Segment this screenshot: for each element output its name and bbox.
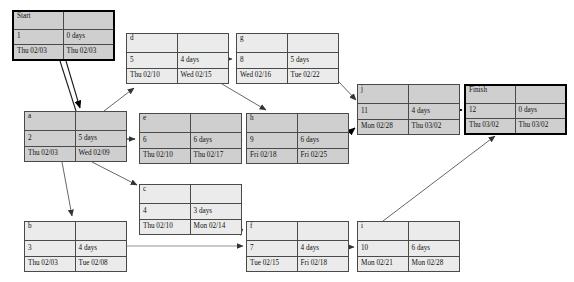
node-id-duration-row: 96 days — [247, 133, 348, 148]
node-task-id: 1 — [14, 30, 64, 44]
node-task-id: 9 — [247, 133, 298, 147]
node-name-row: i — [358, 222, 459, 241]
node-duration: 3 days — [191, 204, 242, 218]
node-id-duration-row: 120 days — [466, 104, 565, 119]
task-node-e[interactable]: e66 daysThu 02/10Thu 02/17 — [139, 113, 242, 164]
node-task-name: j — [358, 85, 409, 103]
node-id-duration-row: 74 days — [247, 241, 348, 256]
node-duration: 0 days — [64, 30, 114, 44]
node-duration: 5 days — [288, 53, 339, 67]
node-dates-row: Mon 02/21Mon 02/28 — [358, 257, 459, 271]
node-name-spacer — [191, 114, 242, 132]
node-start-date: Thu 02/10 — [140, 220, 191, 234]
node-start-date: Thu 02/03 — [25, 257, 76, 271]
node-finish-date: Mon 02/28 — [409, 257, 460, 271]
node-start-date: Thu 02/03 — [14, 45, 64, 59]
node-name-spacer — [298, 222, 349, 240]
node-task-name: f — [247, 222, 298, 240]
node-start-date: Mon 02/21 — [358, 257, 409, 271]
node-duration: 0 days — [516, 104, 566, 118]
node-finish-date: Tue 02/22 — [288, 69, 339, 83]
task-node-f[interactable]: f74 daysTue 02/15Fri 02/18 — [246, 221, 349, 272]
node-duration: 4 days — [178, 53, 229, 67]
node-start-date: Wed 02/16 — [237, 69, 288, 83]
node-id-duration-row: 66 days — [140, 133, 241, 148]
node-start-date: Mon 02/28 — [358, 120, 409, 134]
node-task-name: i — [358, 222, 409, 240]
node-task-name: g — [237, 34, 288, 52]
node-name-row: Start — [14, 12, 113, 30]
node-task-id: 7 — [247, 241, 298, 255]
node-task-id: 5 — [127, 53, 178, 67]
node-name-spacer — [64, 12, 114, 29]
edge-a-c — [92, 162, 137, 185]
node-task-id: 11 — [358, 104, 409, 118]
node-duration: 4 days — [298, 241, 349, 255]
node-name-row: e — [140, 114, 241, 133]
edge-g-j — [339, 82, 356, 100]
node-name-row: d — [127, 34, 228, 53]
task-node-finish[interactable]: Finish120 daysThu 03/02Thu 03/02 — [464, 84, 567, 135]
node-dates-row: Thu 02/10Mon 02/14 — [140, 220, 241, 234]
node-task-id: 4 — [140, 204, 191, 218]
task-node-h[interactable]: h96 daysFri 02/18Fri 02/25 — [246, 113, 349, 164]
edge-h-j — [349, 128, 355, 133]
node-task-name: Start — [14, 12, 64, 29]
node-start-date: Thu 02/10 — [127, 69, 178, 83]
node-id-duration-row: 43 days — [140, 204, 241, 219]
node-dates-row: Wed 02/16Tue 02/22 — [237, 69, 338, 83]
node-task-id: 10 — [358, 241, 409, 255]
task-node-j[interactable]: j114 daysMon 02/28Thu 03/02 — [357, 84, 460, 135]
node-start-date: Fri 02/18 — [247, 149, 298, 163]
node-task-id: 12 — [466, 104, 516, 118]
node-name-row: h — [247, 114, 348, 133]
node-duration: 4 days — [76, 241, 127, 255]
node-dates-row: Thu 02/03Thu 02/03 — [14, 45, 113, 59]
node-duration: 6 days — [298, 133, 349, 147]
node-task-name: e — [140, 114, 191, 132]
node-finish-date: Wed 02/15 — [178, 69, 229, 83]
node-task-name: Finish — [466, 86, 516, 103]
task-node-c[interactable]: c43 daysThu 02/10Mon 02/14 — [139, 184, 242, 235]
node-finish-date: Thu 03/02 — [409, 120, 460, 134]
node-task-name: d — [127, 34, 178, 52]
node-dates-row: Thu 03/02Thu 03/02 — [466, 119, 565, 133]
node-id-duration-row: 25 days — [25, 131, 126, 146]
node-name-spacer — [298, 114, 349, 132]
node-dates-row: Mon 02/28Thu 03/02 — [358, 120, 459, 134]
edge-a-d — [104, 88, 134, 111]
node-task-name: a — [25, 112, 76, 130]
node-name-spacer — [288, 34, 339, 52]
node-finish-date: Fri 02/18 — [298, 257, 349, 271]
node-task-id: 6 — [140, 133, 191, 147]
task-node-d[interactable]: d54 daysThu 02/10Wed 02/15 — [126, 33, 229, 84]
node-name-spacer — [516, 86, 566, 103]
network-diagram-canvas: Start10 daysThu 02/03Thu 02/03d54 daysTh… — [0, 0, 574, 282]
node-id-duration-row: 54 days — [127, 53, 228, 68]
node-name-row: a — [25, 112, 126, 131]
node-start-date: Tue 02/15 — [247, 257, 298, 271]
task-node-a[interactable]: a25 daysThu 02/03Wed 02/09 — [24, 111, 127, 162]
node-name-spacer — [76, 222, 127, 240]
node-name-row: b — [25, 222, 126, 241]
task-node-start[interactable]: Start10 daysThu 02/03Thu 02/03 — [12, 10, 115, 61]
node-duration: 6 days — [191, 133, 242, 147]
task-node-g[interactable]: g85 daysWed 02/16Tue 02/22 — [236, 33, 339, 84]
node-task-name: b — [25, 222, 76, 240]
node-dates-row: Thu 02/10Thu 02/17 — [140, 149, 241, 163]
node-duration: 4 days — [409, 104, 460, 118]
task-node-b[interactable]: b34 daysThu 02/03Tue 02/08 — [24, 221, 127, 272]
node-finish-date: Thu 02/17 — [191, 149, 242, 163]
task-node-i[interactable]: i106 daysMon 02/21Mon 02/28 — [357, 221, 460, 272]
node-dates-row: Thu 02/10Wed 02/15 — [127, 69, 228, 83]
edge-c-f — [242, 229, 243, 230]
node-duration: 6 days — [409, 241, 460, 255]
node-name-spacer — [409, 85, 460, 103]
node-name-row: g — [237, 34, 338, 53]
node-task-id: 8 — [237, 53, 288, 67]
node-name-row: Finish — [466, 86, 565, 104]
node-id-duration-row: 34 days — [25, 241, 126, 256]
node-finish-date: Fri 02/25 — [298, 149, 349, 163]
node-finish-date: Wed 02/09 — [76, 147, 127, 161]
node-task-id: 2 — [25, 131, 76, 145]
